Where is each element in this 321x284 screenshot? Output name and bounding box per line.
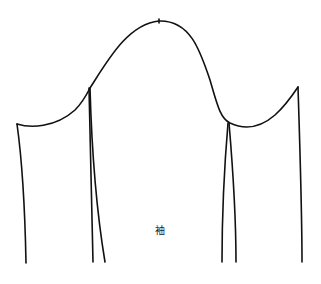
pattern-svg bbox=[0, 0, 321, 284]
sleeve-cap-curve bbox=[17, 21, 298, 127]
right-inner-seam-a bbox=[222, 123, 228, 262]
left-outer-seam bbox=[17, 124, 26, 263]
right-outer-seam bbox=[298, 87, 302, 262]
sleeve-pattern-diagram: 袖 bbox=[0, 0, 321, 284]
sleeve-label: 袖 bbox=[155, 226, 165, 236]
right-inner-seam-b bbox=[229, 123, 236, 262]
